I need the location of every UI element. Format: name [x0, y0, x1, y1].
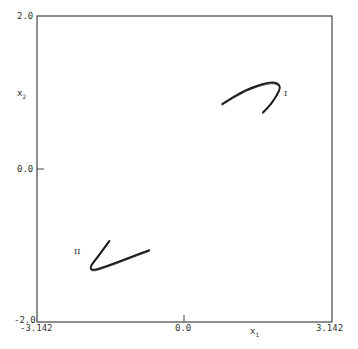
x-axis-label-sub: 1 — [255, 331, 259, 338]
curve-II-band — [91, 242, 150, 271]
curve-I — [222, 82, 280, 112]
curves — [91, 82, 280, 270]
x-tick-label-left: -3.142 — [20, 324, 53, 333]
y-tick-label-top: 2.0 — [17, 12, 33, 21]
y-axis-label-sub: 2 — [22, 93, 26, 100]
x-tick-label-right: 3.142 — [316, 324, 343, 333]
y-tick-label-zero: 0.0 — [17, 165, 33, 174]
plot-area — [0, 0, 358, 349]
y-axis-label: x2 — [17, 89, 26, 100]
curve-label-I: I — [284, 90, 287, 98]
plot-frame — [37, 16, 332, 322]
x-axis-label: x1 — [250, 327, 259, 338]
curve-label-II: II — [74, 248, 80, 256]
x-tick-label-zero: 0.0 — [175, 324, 191, 333]
